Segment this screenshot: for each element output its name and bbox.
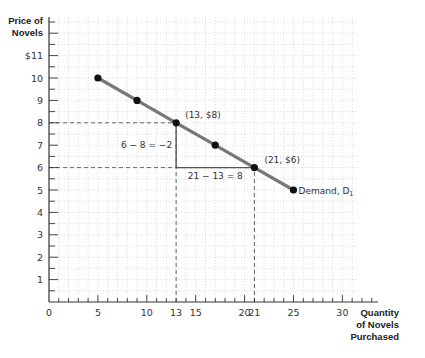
data-point xyxy=(212,142,219,149)
run-label: 21 − 13 = 8 xyxy=(188,171,243,181)
data-point xyxy=(251,164,258,171)
point-label-21-6: (21, $6) xyxy=(264,155,300,165)
y-tick-label: 6 xyxy=(37,162,43,173)
x-tick-label: 5 xyxy=(95,307,101,318)
y-axis-title: Price of xyxy=(8,15,44,26)
x-tick-label: 10 xyxy=(141,307,153,318)
x-tick-label: 25 xyxy=(287,307,299,318)
grid xyxy=(49,17,358,302)
demand-curve-chart: 051013152021253012345678910$11 (13, $8)(… xyxy=(0,0,425,358)
y-tick-label: 7 xyxy=(37,140,43,151)
y-tick-label: 3 xyxy=(37,229,43,240)
data-point xyxy=(290,186,297,193)
rise-label: 6 − 8 = −2 xyxy=(121,140,172,150)
y-tick-label: $11 xyxy=(25,50,43,61)
demand-curve-label: Demand, D1 xyxy=(299,186,354,198)
y-axis-title: Novels xyxy=(12,27,43,38)
data-point xyxy=(133,97,140,104)
point-label-13-8: (13, $8) xyxy=(185,110,221,120)
y-tick-label: 4 xyxy=(37,207,43,218)
x-tick-label: 15 xyxy=(190,307,202,318)
y-tick-label: 10 xyxy=(31,73,43,84)
tick-labels: 051013152021253012345678910$11 xyxy=(25,50,349,318)
axes xyxy=(49,17,378,302)
x-axis-title: Quantity xyxy=(360,307,399,318)
x-tick-label: 30 xyxy=(336,307,348,318)
x-axis-title: of Novels xyxy=(356,319,399,330)
x-axis-title: Purchased xyxy=(350,331,399,342)
x-tick-label: 0 xyxy=(46,307,52,318)
y-tick-label: 5 xyxy=(37,185,43,196)
y-tick-label: 1 xyxy=(37,274,43,285)
y-tick-label: 9 xyxy=(37,95,43,106)
x-tick-label: 21 xyxy=(248,307,260,318)
data-point xyxy=(94,74,101,81)
y-tick-label: 8 xyxy=(37,117,43,128)
data-point xyxy=(173,119,180,126)
y-tick-label: 2 xyxy=(37,252,43,263)
x-tick-label: 13 xyxy=(170,307,182,318)
